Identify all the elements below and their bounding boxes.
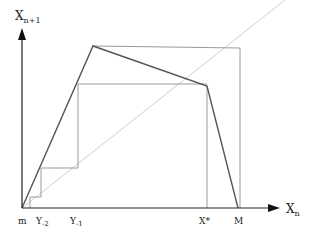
y-axis-label: Xn+1 xyxy=(15,9,41,25)
identity-diagonal xyxy=(22,0,290,208)
tick-label-y-minus-2: Y-2 xyxy=(35,216,49,228)
tick-label-y-minus-1: Y-1 xyxy=(69,216,83,228)
tick-label-M: M xyxy=(234,216,243,226)
x-axis-label: Xn xyxy=(286,202,300,218)
staircase-path xyxy=(30,84,207,208)
cobweb-diagram: Xn+1 Xn m Y-2 Y-1 X* M xyxy=(0,0,312,240)
y-axis-arrow-icon xyxy=(18,28,26,40)
map-curve xyxy=(22,46,238,208)
x-axis-arrow-icon xyxy=(268,204,280,212)
tick-label-xstar: X* xyxy=(199,216,210,226)
tick-label-m: m xyxy=(18,216,27,226)
